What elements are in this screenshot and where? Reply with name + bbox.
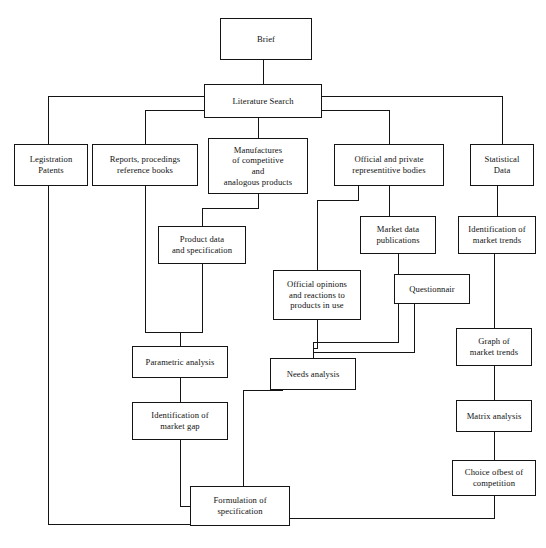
node-market_data[interactable]: Market data publications [360, 216, 436, 254]
node-label-parametric: Parametric analysis [143, 356, 218, 369]
node-official_opinions[interactable]: Official opinions and reactions to produ… [273, 270, 361, 320]
node-graph_trends[interactable]: Graph of market trends [456, 328, 532, 366]
node-ident_gap[interactable]: Identification of market gap [132, 402, 228, 440]
node-label-formulation: Formulation of specification [210, 494, 269, 517]
connector-bodies-to-opinions [317, 186, 358, 270]
connector-literature-to-legistration [48, 96, 204, 144]
connector-opinions-to-needs [313, 320, 317, 358]
node-label-choice_best: Choice ofbest of competition [462, 466, 526, 489]
node-matrix[interactable]: Matrix analysis [456, 400, 532, 432]
node-reports[interactable]: Reports, procedings reference books [92, 144, 198, 186]
node-needs_analysis[interactable]: Needs analysis [270, 358, 356, 390]
node-label-ident_gap: Identification of market gap [148, 409, 211, 432]
node-label-official_opinions: Official opinions and reactions to produ… [284, 278, 350, 312]
node-choice_best[interactable]: Choice ofbest of competition [452, 460, 536, 496]
connector-gap-to-formulation [180, 440, 190, 506]
node-official_bodies[interactable]: Official and private representitive bodi… [334, 144, 444, 186]
node-brief[interactable]: Brief [220, 18, 312, 60]
node-label-graph_trends: Graph of market trends [467, 335, 521, 358]
node-label-market_data: Market data publications [373, 223, 422, 246]
node-label-manufactures: Manufactures of competitive and analogou… [221, 144, 295, 189]
node-parametric[interactable]: Parametric analysis [132, 346, 228, 378]
node-label-reports: Reports, procedings reference books [107, 153, 184, 176]
flowchart-canvas: BriefLiterature SearchLegistration Paten… [0, 0, 546, 548]
node-statistical_data[interactable]: Statistical Data [470, 144, 534, 186]
connector-manufactures-to-product [202, 194, 258, 226]
node-label-official_bodies: Official and private representitive bodi… [349, 153, 428, 176]
node-literature_search[interactable]: Literature Search [204, 84, 322, 118]
node-label-literature_search: Literature Search [229, 95, 296, 108]
node-ident_trends[interactable]: Identification of market trends [458, 216, 536, 254]
node-formulation[interactable]: Formulation of specification [190, 486, 290, 526]
node-label-matrix: Matrix analysis [464, 410, 525, 423]
connector-literature-to-bodies [322, 110, 389, 144]
node-product_data[interactable]: Product data and specification [158, 226, 246, 264]
node-questionnair[interactable]: Questionnair [394, 274, 470, 304]
connector-literature-to-reports [145, 110, 204, 144]
node-label-brief: Brief [254, 33, 278, 46]
connector-product-to-parametric [180, 264, 202, 346]
node-manufactures[interactable]: Manufactures of competitive and analogou… [208, 138, 308, 194]
node-label-ident_trends: Identification of market trends [465, 223, 528, 246]
connector-choice-to-formulation [290, 496, 494, 518]
connector-literature-to-statistical [322, 96, 502, 144]
node-label-questionnair: Questionnair [406, 283, 458, 296]
node-legistration[interactable]: Legistration Patents [14, 144, 88, 186]
node-label-legistration: Legistration Patents [27, 153, 76, 176]
node-label-needs_analysis: Needs analysis [284, 368, 343, 381]
node-label-product_data: Product data and specification [169, 233, 235, 256]
node-label-statistical_data: Statistical Data [482, 153, 523, 176]
